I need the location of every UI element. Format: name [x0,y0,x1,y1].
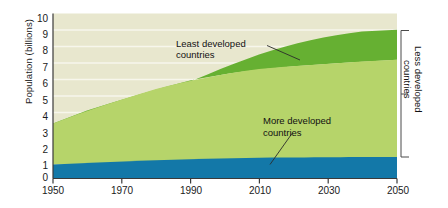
bracket-label-line-2: countries [402,46,413,113]
annotation-more-developed-line-2: countries [263,127,331,139]
bracket-label-line-1: Less developed [413,46,424,113]
plot-canvas [0,0,448,208]
annotation-more-developed: More developed countries [263,115,331,138]
x-tick-marks [53,179,397,184]
annotation-least-developed-line-2: countries [176,49,246,61]
annotation-least-developed-line-1: Least developed [176,38,246,50]
annotation-least-developed: Least developed countries [176,38,246,61]
bracket-label-less-developed: Less developed countries [402,46,424,113]
population-area-chart: Population (billions) 10 9 8 7 6 5 4 3 2… [0,0,448,208]
annotation-more-developed-line-1: More developed [263,115,331,127]
